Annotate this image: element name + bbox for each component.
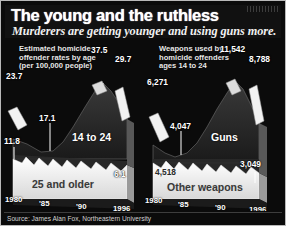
chart-weapons-used: Weapons used by homicide offenders ages … (145, 39, 285, 211)
chart-right-value-lower-end: 3,049 (240, 159, 261, 169)
chart-left-value-lower-end: 6.1 (114, 169, 126, 179)
chart-right-value-upper-peak: 11,542 (220, 44, 245, 54)
chart-left-legend-line3: (per 100,000 people) (19, 62, 96, 71)
chart-left-side-face-upper (127, 119, 134, 168)
chart-homicide-offender-rates: Estimated homicide offender rates by age… (3, 39, 143, 211)
header-banner: The young and the ruthless Murderers are… (5, 5, 281, 38)
chart-left-side-face (127, 165, 134, 203)
chart-right-xtick-1: '85 (178, 200, 189, 209)
chart-right-value-lower-start: 4,518 (155, 167, 176, 177)
chart-right-band-label-upper: Guns (211, 131, 238, 143)
chart-right-value-lower-mid: 4,047 (170, 121, 191, 131)
chart-right-xtick-2: '90 (215, 203, 226, 211)
chart-right-side-face (259, 173, 267, 203)
chart-left-xtick-1: '85 (39, 199, 50, 208)
chart-left-xtick-2: '90 (76, 202, 87, 211)
page-subtitle: Murderers are getting younger and using … (12, 24, 276, 38)
source-divider (4, 212, 282, 213)
chart-left-value-upper-end: 29.7 (115, 54, 131, 64)
chart-left-band-label-upper: 14 to 24 (72, 131, 111, 143)
source-credit: Source: James Alan Fox, Northeastern Uni… (7, 215, 151, 222)
chart-left-value-lower-mid: 17.1 (39, 113, 55, 123)
chart-left-value-lower-start: 11.8 (4, 136, 20, 146)
chart-left-value-upper-peak: 37.5 (91, 45, 107, 55)
chart-left-legend: Estimated homicide offender rates by age… (19, 45, 96, 71)
chart-left-xtick-0: 1980 (5, 195, 22, 204)
chart-right-band-label-lower: Other weapons (167, 181, 243, 193)
header-texture (247, 6, 279, 12)
chart-right-value-upper-start: 6,271 (147, 77, 168, 87)
chart-right-xtick-0: 1980 (145, 196, 162, 205)
chart-left-xtick-3: 1996 (113, 204, 130, 211)
chart-right-value-upper-end: 8,788 (249, 54, 270, 64)
infographic-panel: The young and the ruthless Murderers are… (0, 0, 286, 226)
chart-right-legend-line3: ages 14 to 24 (159, 62, 229, 71)
chart-right-legend: Weapons used by homicide offenders ages … (159, 45, 229, 71)
chart-left-band-label-lower: 25 and older (32, 178, 94, 190)
chart-left-value-upper-start: 23.7 (6, 71, 22, 81)
chart-right-xtick-3: 1996 (249, 205, 266, 211)
page-title: The young and the ruthless (11, 6, 219, 25)
